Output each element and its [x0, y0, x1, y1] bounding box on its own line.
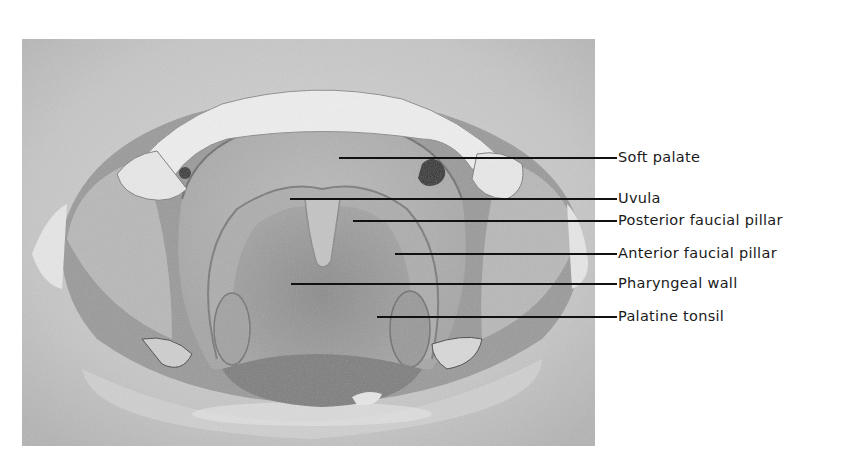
label-posterior-faucial-pillar: Posterior faucial pillar: [618, 212, 783, 228]
label-uvula: Uvula: [618, 190, 661, 206]
label-anterior-faucial-pillar: Anterior faucial pillar: [618, 245, 777, 261]
label-palatine-tonsil: Palatine tonsil: [618, 308, 724, 324]
label-pharyngeal-wall: Pharyngeal wall: [618, 275, 738, 291]
label-soft-palate: Soft palate: [618, 149, 700, 165]
labeled-anatomy-figure: Soft palate Uvula Posterior faucial pill…: [0, 0, 849, 468]
leader-lines: [0, 0, 849, 468]
